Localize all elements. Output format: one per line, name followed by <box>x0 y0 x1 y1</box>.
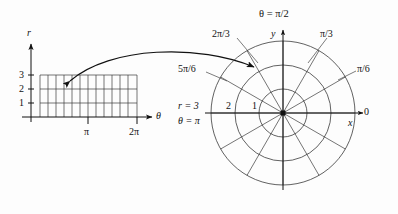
polar-circle-label-2: 2 <box>226 101 231 111</box>
polar-origin-marker <box>281 111 286 116</box>
polar-circle-label-1: 1 <box>252 101 257 111</box>
rect-r-tick-3: 3 <box>19 70 24 80</box>
rect-theta-tick-pi: π <box>84 127 89 137</box>
polar-label-zero: 0 <box>364 107 369 117</box>
rect-theta-axis-label: θ <box>156 111 161 121</box>
rect-r-axis-label: r <box>27 28 31 38</box>
leader-pi6 <box>338 71 356 80</box>
polar-label-2pi-over-3: 2π/3 <box>212 29 230 39</box>
mapping-arrow <box>70 52 254 81</box>
polar-y-axis-label: y <box>271 29 275 39</box>
polar-label-theta-equals-pi: θ = π <box>178 116 200 126</box>
rect-r-tick-1: 1 <box>19 98 24 108</box>
polar-label-5pi-over-6: 5π/6 <box>178 64 196 74</box>
leader-pi3 <box>308 38 327 63</box>
rect-theta-ticks <box>88 117 137 124</box>
leader-2pi3 <box>237 38 258 63</box>
figure-canvas: r θ 1 2 3 π 2π θ = π/2 y x 0 2π/3 π/3 π/… <box>0 0 398 214</box>
rect-grid-vertical-lines <box>40 75 137 117</box>
polar-label-pi-over-6: π/6 <box>357 64 370 74</box>
rect-grid-horizontal-lines <box>40 75 137 103</box>
polar-x-axis-label: x <box>348 118 352 128</box>
polar-label-theta-half-pi: θ = π/2 <box>259 9 289 20</box>
rect-theta-tick-2pi: 2π <box>129 127 139 137</box>
rect-r-tick-2: 2 <box>19 84 24 94</box>
polar-label-pi-over-3: π/3 <box>320 29 333 39</box>
diagram-svg <box>0 0 398 214</box>
leader-5pi6 <box>206 72 227 81</box>
polar-label-r-equals-3: r = 3 <box>178 101 199 111</box>
rect-grid-group <box>22 44 152 124</box>
